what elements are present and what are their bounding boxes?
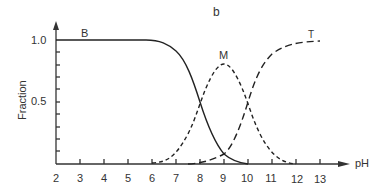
x-tick-label: 9: [220, 172, 226, 184]
x-tick-labels: 2 3 4 5 6 7 8 9 10 11 12 13: [53, 172, 326, 185]
x-tick-label: 13: [314, 173, 326, 185]
y-tick-label-1: 1.0: [31, 34, 46, 46]
x-tick-label: 12: [291, 173, 303, 185]
x-tick-label: 8: [197, 172, 203, 184]
x-axis-label: pH: [355, 157, 369, 169]
series-t-line: [188, 41, 320, 164]
x-axis-arrow-icon: [338, 161, 350, 167]
speciation-chart: b 1.0 0.5 Fraction 2 3 4 5: [0, 0, 389, 195]
x-tick-label: 2: [53, 172, 59, 184]
series-m-label: M: [219, 49, 228, 61]
series-t-label: T: [308, 29, 314, 40]
x-tick-label: 6: [149, 172, 155, 184]
y-axis: [56, 26, 60, 164]
chart-title: b: [213, 5, 220, 19]
x-axis: [56, 159, 340, 164]
x-tick-label: 5: [125, 172, 131, 184]
x-tick-label: 4: [101, 172, 107, 184]
x-tick-label: 11: [265, 172, 276, 184]
y-axis-arrow-icon: [53, 21, 59, 30]
series-m-line: [152, 64, 296, 164]
y-tick-label-05: 0.5: [31, 95, 46, 107]
y-axis-label: Fraction: [16, 80, 28, 120]
x-tick-label: 10: [241, 172, 253, 184]
x-tick-label: 7: [173, 172, 179, 184]
series-b-label: B: [81, 27, 88, 39]
x-tick-label: 3: [77, 172, 83, 184]
